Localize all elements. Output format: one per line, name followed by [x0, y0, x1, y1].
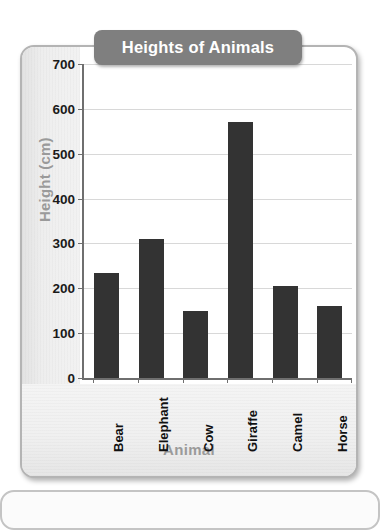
x-axis-category-label: Elephant: [156, 320, 171, 386]
x-axis-tick: [138, 378, 139, 383]
chart-title: Heights of Animals: [122, 38, 274, 57]
y-axis-tick-label: 600: [52, 101, 75, 116]
x-axis-tick: [93, 378, 94, 383]
y-axis-tick-label: 300: [52, 236, 75, 251]
plot-area: 7006005004003002001000 BearElephantCowGi…: [82, 64, 352, 380]
bottom-panel: [0, 490, 380, 530]
y-axis-tick-label: 0: [67, 371, 75, 386]
x-axis-category-text: Giraffe: [245, 386, 260, 452]
chart-title-banner: Heights of Animals: [94, 30, 302, 65]
x-axis-category-label: Camel: [290, 320, 305, 386]
x-axis-category-text: Elephant: [156, 386, 171, 452]
x-axis-category-text: Cow: [201, 386, 216, 452]
y-axis-title: Height (cm): [36, 137, 53, 222]
y-axis-tick-label: 500: [52, 146, 75, 161]
x-axis-category-label: Bear: [111, 320, 126, 386]
x-axis-tick: [183, 378, 184, 383]
x-axis-tick: [227, 378, 228, 383]
x-axis-category-text: Camel: [290, 386, 305, 452]
x-axis-tick: [272, 378, 273, 383]
y-axis-tick-label: 200: [52, 281, 75, 296]
chart-card: Heights of Animals Height (cm) Animal 70…: [20, 45, 358, 478]
y-axis-tick-label: 400: [52, 191, 75, 206]
y-axis-tick: [78, 378, 84, 379]
bottom-gutter-texture: [22, 384, 356, 476]
x-axis-tick: [351, 378, 352, 383]
x-axis-category-text: Bear: [111, 386, 126, 452]
y-axis-tick-label: 700: [52, 57, 75, 72]
x-axis-category-label: Horse: [335, 320, 350, 386]
x-axis-category-label: Cow: [201, 320, 216, 386]
x-axis-category-text: Horse: [335, 386, 350, 452]
x-axis-title: Animal: [22, 441, 356, 458]
x-axis-category-label: Giraffe: [245, 320, 260, 386]
y-axis-tick-label: 100: [52, 326, 75, 341]
x-axis-tick: [317, 378, 318, 383]
